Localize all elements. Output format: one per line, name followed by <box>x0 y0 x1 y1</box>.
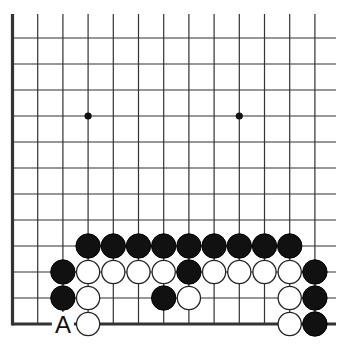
black-stone <box>303 286 327 310</box>
star-point <box>85 112 92 119</box>
black-stone <box>126 234 150 258</box>
white-stone <box>203 260 226 283</box>
white-stone <box>152 260 175 283</box>
white-stone <box>228 260 251 283</box>
white-stone <box>278 260 301 283</box>
white-stone <box>278 286 301 309</box>
black-stone <box>177 234 201 258</box>
black-stone <box>227 234 251 258</box>
point-labels: A <box>52 311 74 338</box>
white-stone <box>177 286 200 309</box>
black-stone <box>152 234 176 258</box>
white-stone <box>278 312 301 335</box>
white-stone <box>102 260 125 283</box>
white-stone <box>77 260 100 283</box>
go-board: A <box>0 0 343 349</box>
black-stone <box>252 234 276 258</box>
black-stone <box>278 234 302 258</box>
white-stone <box>253 260 276 283</box>
black-stone <box>152 286 176 310</box>
black-stone <box>303 312 327 336</box>
black-stone <box>51 286 75 310</box>
black-stone <box>177 260 201 284</box>
black-stone <box>51 260 75 284</box>
star-point <box>236 112 243 119</box>
black-stone <box>202 234 226 258</box>
black-stone <box>76 234 100 258</box>
white-stone <box>127 260 150 283</box>
black-stone <box>101 234 125 258</box>
white-stone <box>77 286 100 309</box>
point-label: A <box>55 311 71 338</box>
white-stone <box>77 312 100 335</box>
black-stone <box>303 260 327 284</box>
